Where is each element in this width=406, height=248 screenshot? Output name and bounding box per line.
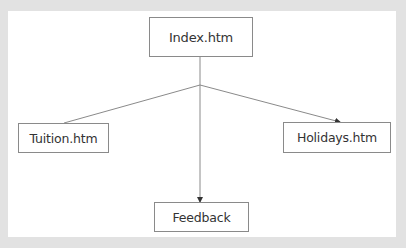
node-feedback: Feedback [154, 202, 249, 232]
node-tuition: Tuition.htm [18, 123, 109, 153]
node-index: Index.htm [149, 17, 253, 57]
node-index-label: Index.htm [169, 30, 233, 45]
node-feedback-label: Feedback [173, 210, 231, 225]
node-tuition-label: Tuition.htm [30, 131, 98, 146]
node-holidays: Holidays.htm [283, 122, 391, 153]
node-holidays-label: Holidays.htm [297, 130, 377, 145]
